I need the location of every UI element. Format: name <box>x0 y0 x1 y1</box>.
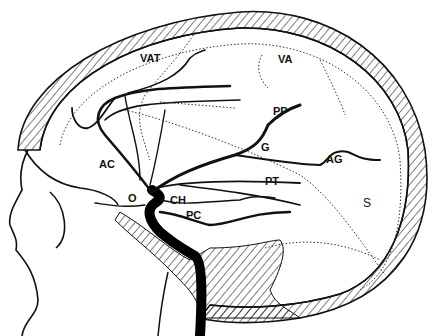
label-s: S <box>363 196 371 210</box>
label-pp: PP <box>273 105 288 117</box>
face-profile <box>10 150 118 336</box>
label-pt: PT <box>265 175 279 187</box>
neck-tissue <box>115 212 300 318</box>
label-ch: CH <box>170 194 186 206</box>
label-vat: VAT <box>140 52 161 64</box>
label-ac: AC <box>99 158 115 170</box>
label-ag: AG <box>326 153 343 165</box>
neck-line <box>158 272 168 336</box>
label-o: O <box>128 192 137 204</box>
label-va: VA <box>278 53 293 65</box>
anatomical-figure: VAT VA PP G AG PT AC O CH PC S <box>0 0 431 336</box>
label-pc: PC <box>186 209 201 221</box>
head-artery-diagram: VAT VA PP G AG PT AC O CH PC S <box>0 0 431 336</box>
label-g: G <box>261 141 270 153</box>
cerebral-arteries <box>72 50 380 225</box>
